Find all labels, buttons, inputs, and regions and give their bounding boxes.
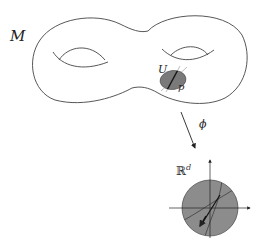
patch-label-U: U [158, 63, 168, 76]
manifold-label-M: M [9, 27, 26, 45]
chart-map-arrow [181, 112, 195, 148]
target-space-label: ℝd [176, 163, 191, 178]
surface-outline [33, 16, 248, 104]
manifold-chart-diagram: U p M ϕ ℝd [0, 0, 264, 238]
right-handle-hole [162, 47, 214, 60]
left-handle-hole [53, 48, 108, 67]
point-label-p: p [178, 81, 185, 92]
map-label-phi: ϕ [199, 118, 207, 131]
